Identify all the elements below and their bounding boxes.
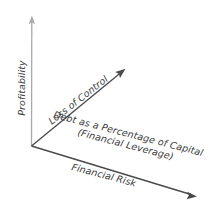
vertical-axis-group [29, 16, 35, 147]
diagram-canvas: Profitability Loss of Control Debt as a … [0, 0, 210, 210]
descending-axis-arrowhead [187, 192, 197, 199]
axis-label-profitability: Profitability [16, 60, 27, 116]
diagonal-axis-arrowhead [115, 69, 125, 79]
